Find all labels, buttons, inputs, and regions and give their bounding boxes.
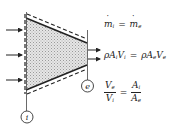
mdot-inlet: m xyxy=(104,19,113,29)
fraction-numerator: Ai xyxy=(131,80,141,93)
continuity-equation: ρAiVi = ρAeVe xyxy=(104,50,166,61)
inlet-label: i xyxy=(26,113,29,122)
subscript: e xyxy=(112,84,115,90)
subscript: e xyxy=(163,54,166,60)
fluid-region xyxy=(26,18,87,90)
exit-label: e xyxy=(85,82,90,91)
mdot-exit: m xyxy=(130,19,139,29)
fraction-numerator: Ve xyxy=(104,80,116,93)
velocity-ratio-equation: Ve Vi = Ai Ae xyxy=(104,80,141,105)
mdot-symbol: m xyxy=(130,19,139,29)
mdot-symbol: m xyxy=(104,19,113,29)
mass-balance-equation: mi = me xyxy=(104,19,141,30)
subscript: i xyxy=(124,54,126,60)
subscript: i xyxy=(139,84,141,90)
equals-sign: = xyxy=(130,51,138,61)
fraction-denominator: Ae xyxy=(131,93,141,105)
fraction-denominator: Vi xyxy=(104,93,116,105)
control-volume-diagram: i e xyxy=(0,0,176,130)
subscript: i xyxy=(112,97,114,103)
equals-sign: = xyxy=(118,20,126,30)
velocity-fraction: Ve Vi xyxy=(104,80,116,105)
equals-sign: = xyxy=(120,88,128,98)
area-fraction: Ai Ae xyxy=(131,80,141,105)
exit-subscript: e xyxy=(138,23,141,29)
subscript: e xyxy=(138,97,141,103)
